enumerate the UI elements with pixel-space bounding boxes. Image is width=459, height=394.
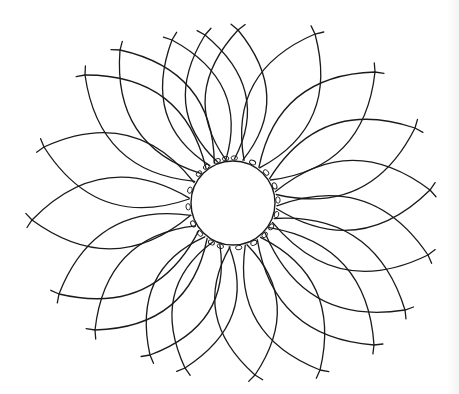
petal-outline <box>37 133 195 183</box>
petal-outline <box>276 119 417 199</box>
flower-drawing <box>0 0 459 394</box>
petal-outline <box>242 32 324 160</box>
petal-outline <box>41 139 190 208</box>
petal-outline <box>177 247 238 372</box>
petal-outline <box>276 160 437 196</box>
petal-joint-mark <box>186 203 191 210</box>
petal-outline <box>231 24 267 160</box>
petal-outline <box>270 228 375 354</box>
petal-outline <box>141 245 221 357</box>
petal-outline <box>26 213 191 248</box>
flower-center-circle <box>191 161 275 245</box>
petal-outline <box>247 245 277 382</box>
petal-joint-mark <box>235 245 242 250</box>
petal-outline <box>76 75 206 168</box>
petal-outline <box>265 233 413 312</box>
petal-outline <box>270 119 423 178</box>
petal-outline <box>271 63 376 180</box>
petal-joint-mark <box>275 197 280 204</box>
drawing-canvas: Flower line drawing <box>0 0 459 394</box>
petal-outline <box>119 41 200 173</box>
petal-outline <box>244 245 329 372</box>
